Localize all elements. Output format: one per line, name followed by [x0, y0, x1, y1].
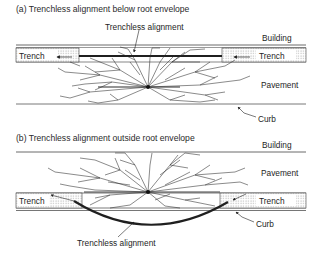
trenchless-pipe	[74, 201, 228, 225]
panel-a-building-label: Building	[262, 33, 292, 43]
panel-b-curb-label: Curb	[256, 219, 274, 229]
panel-b-trench-left-label: Trench	[19, 196, 45, 206]
panel-a-alignment-label: Trenchless alignment	[105, 22, 184, 32]
panel-a-drawing	[16, 30, 306, 117]
panel-b-alignment-label: Trenchless alignment	[77, 238, 156, 248]
panel-b-building-label: Building	[262, 140, 292, 150]
panel-b-caption: (b) Trenchless alignment outside root en…	[16, 133, 195, 143]
panel-a-trench-right-label: Trench	[259, 51, 285, 61]
panel-a-caption: (a) Trenchless alignment below root enve…	[16, 4, 189, 14]
panel-b-pavement-label: Pavement	[261, 168, 298, 178]
panel-a-curb-label: Curb	[258, 114, 276, 124]
panel-a-trench-left-label: Trench	[19, 51, 45, 61]
panel-a-pavement-label: Pavement	[261, 80, 298, 90]
figure: (a) Trenchless alignment below root enve…	[0, 0, 322, 262]
panel-b-trench-right-label: Trench	[259, 196, 285, 206]
